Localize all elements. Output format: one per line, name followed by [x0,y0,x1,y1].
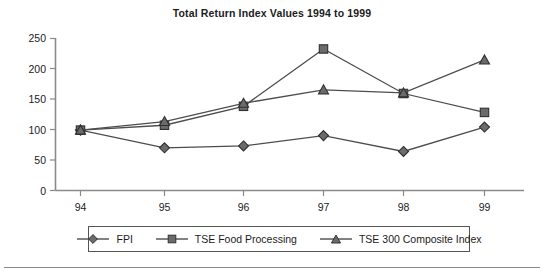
legend-label-fpi: FPI [116,233,132,245]
x-tick-label-94: 94 [75,201,87,213]
square-marker-icon [155,233,189,245]
legend-label-tse-food-processing: TSE Food Processing [195,233,297,245]
x-tick-label-99: 99 [479,201,491,213]
y-tick-label-50: 50 [34,154,46,166]
legend-item-tse-300-composite-index[interactable]: TSE 300 Composite Index [319,233,482,245]
diamond-marker-icon [76,233,110,245]
x-tick-label-97: 97 [318,201,330,213]
data-point[interactable] [319,45,327,53]
data-point[interactable] [319,131,329,141]
page-divider-rule [4,267,540,268]
data-series-layer [76,45,490,157]
data-point[interactable] [160,143,170,153]
chart-legend: FPI TSE Food Processing TSE 300 Composit… [88,226,470,252]
series-line [81,49,485,130]
series-tse-food-processing [76,45,488,135]
chart-figure: Total Return Index Values 1994 to 1999 2… [0,0,544,278]
y-tick-label-150: 150 [28,93,46,105]
y-tick-label-200: 200 [28,63,46,75]
legend-item-fpi[interactable]: FPI [76,233,132,245]
data-point[interactable] [239,141,249,151]
y-tick-label-0: 0 [40,185,46,197]
x-tick-label-95: 95 [159,201,171,213]
y-axis [50,38,56,191]
x-axis [56,191,525,197]
y-tick-label-100: 100 [28,124,46,136]
data-point[interactable] [399,146,409,156]
series-tse-300-composite-index [76,55,490,134]
x-tick-label-96: 96 [238,201,250,213]
series-line [81,60,485,130]
series-line [81,127,485,151]
data-point[interactable] [480,108,488,116]
legend-item-tse-food-processing[interactable]: TSE Food Processing [155,233,297,245]
legend-label-tse-300-composite-index: TSE 300 Composite Index [359,233,482,245]
y-tick-label-250: 250 [28,32,46,44]
data-point[interactable] [480,122,490,132]
x-tick-label-98: 98 [398,201,410,213]
triangle-marker-icon [319,233,353,245]
data-point[interactable] [480,55,490,64]
